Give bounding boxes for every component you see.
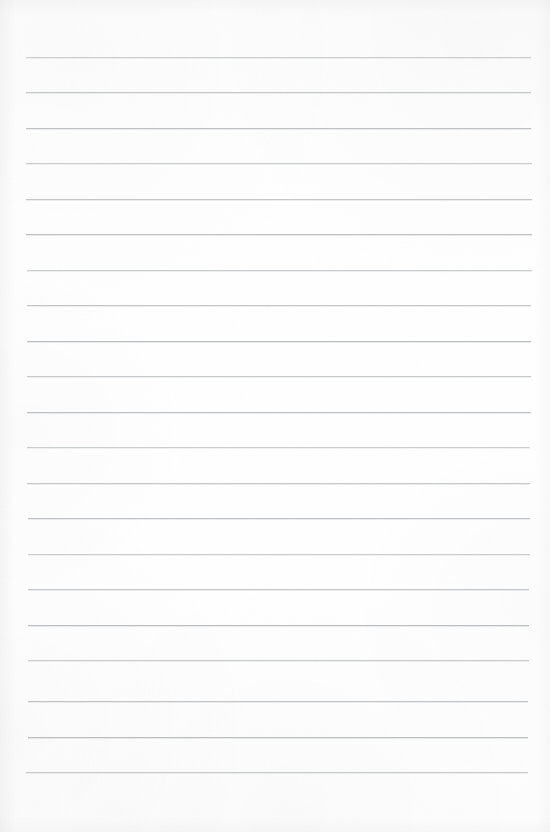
ruled-line bbox=[26, 199, 532, 200]
ruled-line bbox=[27, 341, 531, 342]
ruled-line bbox=[28, 737, 528, 738]
ruled-line bbox=[26, 92, 531, 93]
ruled-line bbox=[27, 305, 531, 306]
ruled-line bbox=[26, 163, 532, 164]
ruled-line bbox=[27, 412, 531, 413]
ruled-line bbox=[28, 589, 529, 590]
ruled-line bbox=[27, 270, 532, 271]
ruled-line bbox=[28, 625, 529, 626]
ruled-line bbox=[26, 234, 532, 235]
scanned-page bbox=[0, 0, 550, 832]
ruled-line bbox=[27, 483, 530, 484]
paper-sheet bbox=[0, 0, 550, 832]
ruled-line bbox=[26, 57, 531, 58]
ruled-line bbox=[27, 447, 530, 448]
ruled-line bbox=[28, 554, 530, 555]
ruled-line bbox=[28, 701, 528, 702]
ruled-line bbox=[26, 128, 531, 129]
ruled-line bbox=[27, 376, 531, 377]
ruled-line bbox=[28, 660, 529, 661]
ruled-line bbox=[28, 518, 530, 519]
ruled-line bbox=[26, 772, 528, 773]
